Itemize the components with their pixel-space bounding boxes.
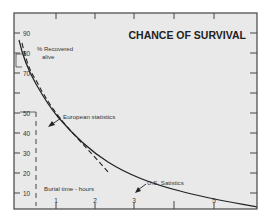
x-tick-3: 3 [132,197,136,204]
chart-title: CHANCE OF SURVIVAL [129,29,247,41]
y-tick-labels: 90 80 70 50 40 30 20 10 [23,30,31,197]
us-annotation: U.S. Satistics [147,179,184,186]
x-tick-2: 2 [93,197,97,204]
y-tick-30: 30 [23,150,31,157]
x-tick-5: 5 [212,197,216,204]
european-annotation: European statistics [63,113,115,120]
y-tick-10: 10 [23,190,31,197]
y-tick-70: 70 [23,70,31,77]
y-tick-80: 80 [23,50,31,57]
x-tick-1: 1 [54,197,58,204]
survival-chart: 90 80 70 50 40 30 20 10 1 2 3 5 CHANCE O… [0,0,270,224]
y-tick-90: 90 [23,30,31,37]
plot-area [14,13,257,209]
y-axis-label-line2: alive [42,54,55,60]
y-tick-40: 40 [23,130,31,137]
x-axis-label: Burial time - hours [44,185,94,192]
y-tick-50: 50 [23,110,31,117]
y-tick-20: 20 [23,170,31,177]
y-axis-label-line1: % Recovered [37,46,73,52]
